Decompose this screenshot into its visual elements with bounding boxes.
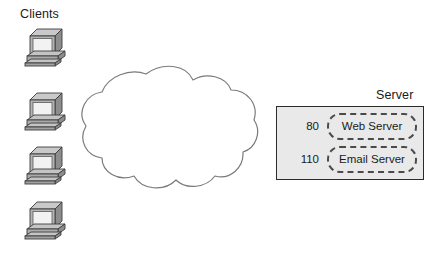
client-computer-3	[24, 144, 68, 188]
desktop-computer-icon	[24, 26, 68, 70]
server-label: Server	[376, 89, 413, 102]
service-email-server: Email Server	[327, 146, 417, 173]
client-computer-2	[24, 90, 68, 134]
port-number: 110	[277, 154, 327, 166]
server-box: 80 Web Server 110 Email Server	[276, 106, 424, 180]
service-web-server: Web Server	[327, 113, 417, 140]
diagram-canvas: Clients	[0, 0, 438, 255]
desktop-computer-icon	[24, 90, 68, 134]
port-number: 80	[277, 121, 327, 133]
desktop-computer-icon	[24, 199, 68, 243]
client-computer-4	[24, 199, 68, 243]
desktop-computer-icon	[24, 144, 68, 188]
network-cloud	[76, 62, 260, 194]
service-name: Email Server	[339, 154, 405, 166]
client-computer-1	[24, 26, 68, 70]
network-cloud-icon	[76, 62, 260, 194]
clients-label: Clients	[20, 8, 59, 21]
service-row: 110 Email Server	[277, 145, 417, 174]
service-row: 80 Web Server	[277, 112, 417, 141]
service-name: Web Server	[342, 121, 403, 133]
